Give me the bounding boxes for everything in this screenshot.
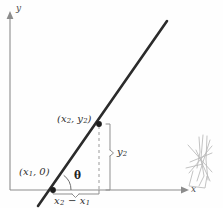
rise-brace [106,124,114,190]
x-axis-label: x [191,185,196,194]
y-axis-label: y [16,4,21,13]
point-label-x2-y2: (x2, y2) [57,114,91,125]
point-marker-x2y2 [96,121,102,127]
scan-pencil-scribble [186,135,212,188]
run-label-x2-minus-x1: x2 − x1 [54,196,90,207]
x-axis-arrowhead [181,187,189,194]
y-axis-arrowhead [7,11,14,19]
line-slope-diagram: y x (x1, 0) (x2, y2) θ y2 x2 − x1 [0,0,223,208]
rise-label-y2: y2 [117,147,127,158]
theta-arc [64,175,71,190]
point-marker-x1 [50,187,56,193]
theta-angle-label: θ [74,170,81,181]
point-label-x1-0: (x1, 0) [19,167,50,178]
